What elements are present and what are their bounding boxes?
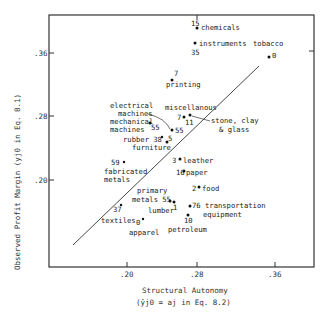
scatter-chart: .36 .28 .20 Observed Profit Margin (yj0 …: [0, 0, 332, 325]
y-tick-label: .28: [34, 112, 48, 121]
label-instruments: instruments: [199, 39, 247, 48]
point-electrical-machines: [171, 129, 174, 132]
label-primary-1: primary: [137, 186, 168, 195]
point-stone-clay-glass: [189, 114, 192, 117]
label-stone-1: stone, clay: [211, 116, 259, 125]
code-leather: 3: [172, 156, 176, 165]
code-paper: 16: [176, 168, 185, 177]
label-lumber: lumber: [148, 206, 175, 215]
code-miscellaneous: 7: [177, 113, 181, 122]
x-tick-label: .20: [120, 270, 134, 279]
y-axis: .36 .28 .20 Observed Profit Margin (yj0 …: [13, 49, 54, 270]
code-textiles: 37: [113, 205, 122, 214]
code-chemicals: 15: [191, 19, 200, 28]
x-axis: .20 .28 .36 Structural Autonomy (ŷj0 = a…: [120, 262, 282, 307]
code-printing: 7: [174, 69, 178, 78]
point-leather: [179, 158, 182, 161]
label-food: food: [202, 184, 219, 193]
code-furniture: 5: [168, 134, 172, 143]
code-lumber: 1: [173, 203, 177, 212]
label-primary-2: metals 55: [132, 195, 171, 204]
point-instruments: [194, 42, 197, 45]
x-axis-subtitle: (ŷj0 = aj in Eq. 8.2): [136, 298, 231, 307]
label-paper: paper: [186, 168, 208, 177]
y-tick-label: .36: [34, 49, 48, 58]
label-furniture: furniture: [132, 143, 171, 152]
label-leather: leather: [183, 156, 214, 165]
x-axis-title: Structural Autonomy: [142, 286, 228, 295]
label-printing: printing: [166, 80, 201, 89]
label-textiles: textiles: [101, 216, 136, 225]
x-tick-label: .28: [190, 270, 204, 279]
code-apparel: 0: [136, 218, 140, 227]
label-transportation-2: equipment: [203, 210, 242, 219]
point-food: [198, 186, 201, 189]
code-food: 2: [192, 184, 196, 193]
code-petroleum: 10: [184, 216, 193, 225]
point-labels: 15 chemicals instruments 35 tobacco 0 7 …: [101, 19, 283, 237]
label-stone-2: & glass: [219, 125, 249, 134]
label-fabricated-2: metals: [104, 175, 130, 184]
code-tobacco: 0: [272, 51, 276, 60]
code-instruments: 35: [191, 48, 200, 57]
point-fabricated-metals: [123, 161, 125, 163]
label-tobacco: tobacco: [253, 39, 283, 48]
label-transportation-1: 76 transportation: [192, 201, 266, 210]
y-tick-label: .20: [34, 176, 48, 185]
label-mechanical-2: machines: [110, 125, 145, 134]
point-apparel: [142, 218, 144, 220]
label-chemicals: chemicals: [201, 23, 240, 32]
y-axis-title: Observed Profit Margin (yj0 in Eq. 8.1): [13, 94, 22, 270]
code-mechanical: 55: [151, 123, 160, 132]
label-petroleum: petroleum: [168, 225, 207, 234]
code-electrical: 55: [175, 126, 184, 135]
code-stone: 11: [185, 118, 194, 127]
x-tick-label: .36: [268, 270, 282, 279]
label-miscellaneous: miscellanous: [165, 103, 217, 112]
label-apparel: apparel: [129, 228, 159, 237]
code-fabricated: 59: [111, 158, 120, 167]
point-tobacco: [268, 56, 271, 59]
